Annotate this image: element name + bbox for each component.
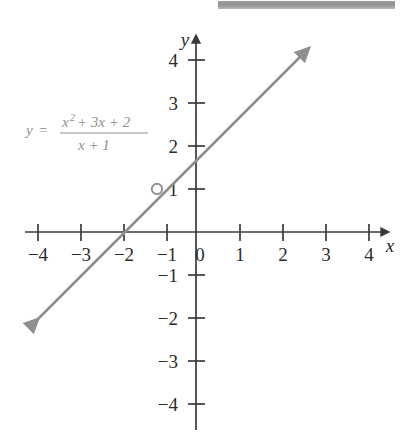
y-tick-label-3: 3 bbox=[169, 93, 179, 114]
equation-denominator: x + 1 bbox=[77, 137, 110, 153]
equation-numerator-base: x bbox=[61, 114, 69, 130]
coordinate-plane: −4 −3 −2 −1 0 1 2 3 4 4 3 2 1 −1 −2 −3 −… bbox=[0, 0, 412, 444]
x-tick-label--1: −1 bbox=[157, 244, 177, 265]
x-tick-label--3: −3 bbox=[71, 244, 91, 265]
removable-discontinuity-open-circle bbox=[152, 184, 162, 194]
x-tick-label-3: 3 bbox=[321, 244, 331, 265]
equation-numerator-rest: + 3x + 2 bbox=[77, 114, 131, 130]
y-tick-label-4: 4 bbox=[169, 50, 179, 71]
equation-lhs: y bbox=[24, 122, 33, 138]
y-axis-label: y bbox=[179, 29, 190, 50]
y-tick-label-2: 2 bbox=[169, 136, 179, 157]
y-tick-label--4: −4 bbox=[158, 394, 179, 415]
y-tick-label--3: −3 bbox=[158, 351, 178, 372]
origin-label: 0 bbox=[195, 244, 205, 265]
equation-numerator-exponent: 2 bbox=[70, 112, 75, 123]
x-tick-label-2: 2 bbox=[278, 244, 288, 265]
graph-figure: −4 −3 −2 −1 0 1 2 3 4 4 3 2 1 −1 −2 −3 −… bbox=[0, 0, 412, 444]
x-axis-label: x bbox=[385, 235, 395, 256]
x-tick-label-1: 1 bbox=[235, 244, 245, 265]
x-axis-tick-labels: −4 −3 −2 −1 0 1 2 3 4 bbox=[28, 244, 374, 265]
y-tick-label--2: −2 bbox=[158, 308, 178, 329]
x-tick-label-4: 4 bbox=[364, 244, 374, 265]
x-tick-label--4: −4 bbox=[28, 244, 49, 265]
x-tick-label--2: −2 bbox=[114, 244, 134, 265]
equation-label: y = x 2 + 3x + 2 x + 1 bbox=[24, 112, 148, 153]
page-edge-shadow-artifact bbox=[218, 1, 395, 9]
equation-equals: = bbox=[38, 122, 48, 138]
y-tick-label--1: −1 bbox=[158, 265, 178, 286]
